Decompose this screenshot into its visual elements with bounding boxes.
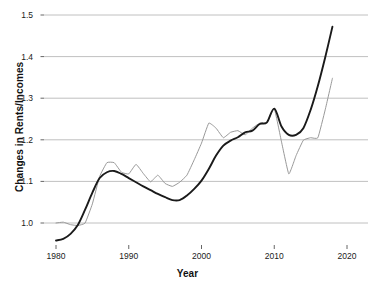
y-tick-label: 1.2 bbox=[7, 135, 33, 145]
y-tick-label: 1.4 bbox=[7, 52, 33, 62]
x-tick-label: 1990 bbox=[109, 251, 149, 261]
data-series-group bbox=[56, 27, 332, 241]
y-tick-label: 1.1 bbox=[7, 176, 33, 186]
x-tick-marks bbox=[56, 245, 347, 249]
y-tick-label: 1.3 bbox=[7, 93, 33, 103]
x-tick-label: 2020 bbox=[327, 251, 367, 261]
y-tick-label: 1.0 bbox=[7, 218, 33, 228]
rents-incomes-line-chart: Changes in Rents/Incomes Year 1.01.11.21… bbox=[0, 0, 375, 287]
y-tick-marks bbox=[41, 15, 45, 223]
series-line-black-series bbox=[56, 27, 332, 241]
plot-area bbox=[0, 0, 375, 287]
series-line-gray-series bbox=[56, 78, 332, 225]
y-tick-label: 1.5 bbox=[7, 10, 33, 20]
x-tick-label: 1980 bbox=[36, 251, 76, 261]
x-tick-label: 2010 bbox=[254, 251, 294, 261]
x-tick-label: 2000 bbox=[182, 251, 222, 261]
